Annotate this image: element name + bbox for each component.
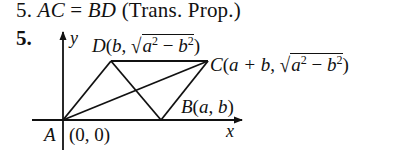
exponent: 2 <box>337 53 343 67</box>
point-b-name: B <box>181 96 193 117</box>
minus: − <box>307 54 327 75</box>
var-b: b <box>178 35 188 56</box>
var-b: b <box>112 35 122 56</box>
point-b-label: B(a, b) <box>181 96 234 118</box>
var-a: a <box>291 54 301 75</box>
sqrt-expression: √a2 − b2 <box>280 53 343 76</box>
coordinate-diagram <box>0 0 405 152</box>
sqrt-expression: √a2 − b2 <box>131 34 194 57</box>
comma: , <box>208 96 218 117</box>
paren: ) <box>343 54 349 75</box>
comma: , <box>270 54 280 75</box>
expr-a-plus-b: a + b <box>229 54 270 75</box>
comma: , <box>122 35 132 56</box>
var-b: b <box>218 96 228 117</box>
minus: − <box>158 35 178 56</box>
point-a-label: A <box>44 124 56 146</box>
var-a: a <box>143 35 153 56</box>
segment-db <box>111 61 161 120</box>
var-a: a <box>199 96 209 117</box>
point-c-label: C(a + b, √a2 − b2) <box>210 53 349 76</box>
paren: ) <box>227 96 233 117</box>
point-c-name: C <box>210 54 223 75</box>
x-axis-label: x <box>226 121 234 142</box>
exponent: 2 <box>188 34 194 48</box>
point-d-name: D <box>92 35 106 56</box>
var-b: b <box>327 54 337 75</box>
paren: ) <box>194 35 200 56</box>
point-d-label: D(b, √a2 − b2) <box>92 34 200 57</box>
point-a-coords: (0, 0) <box>69 124 110 146</box>
y-axis-label: y <box>70 28 78 49</box>
